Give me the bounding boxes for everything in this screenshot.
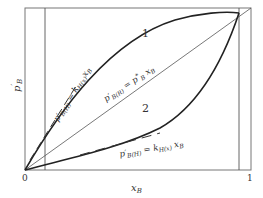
curve-2-label: 2 <box>142 102 149 115</box>
y-axis-label: p′B <box>10 79 24 92</box>
x-axis-label: xB <box>131 182 142 195</box>
curve-1 <box>25 12 239 170</box>
upper-henry-label: p′B(H) = kH(x)xB <box>51 65 93 124</box>
chart: 1 2 p′B(H) = kH(x)xB p′B(R) = p*B xB p′B… <box>0 0 263 198</box>
x-tick-1: 1 <box>247 173 253 183</box>
raoult-label: p′B(R) = p*B xB <box>101 62 157 104</box>
x-tick-0: 0 <box>22 173 28 183</box>
curve-1-label: 1 <box>142 27 149 40</box>
curve-2 <box>25 13 239 170</box>
raoult-line <box>25 8 251 170</box>
